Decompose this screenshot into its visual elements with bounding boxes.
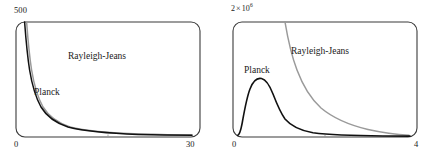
plot-panel-right: 2×106 0 4 Rayleigh-Jeans Planck (218, 0, 436, 163)
curve-annotation-planck-left: Planck (34, 88, 60, 98)
y-max-base: 10 (242, 4, 250, 13)
y-axis-max-label-left: 500 (14, 6, 27, 15)
curve-planck-right (238, 78, 411, 136)
curve-planck-left (25, 22, 192, 135)
plot-frame-right (233, 22, 417, 137)
plot-right-svg (218, 0, 436, 163)
y-axis-max-label-right: 2×106 (231, 5, 253, 13)
plot-frame-left (16, 22, 200, 137)
blackbody-figure: 500 0 30 Rayleigh-Jeans Planck 2×106 0 4… (0, 0, 436, 163)
y-max-exponent: 6 (250, 2, 253, 8)
x-axis-max-label-left: 30 (186, 140, 195, 149)
curve-annotation-rayleigh-jeans-left: Rayleigh-Jeans (68, 52, 126, 62)
plot-panel-left: 500 0 30 Rayleigh-Jeans Planck (0, 0, 218, 163)
curve-rayleigh-jeans-right (285, 22, 409, 135)
multiplication-sign: × (235, 4, 242, 13)
y-axis-min-label-right: 0 (232, 140, 236, 149)
x-axis-max-label-right: 4 (414, 140, 418, 149)
curve-annotation-rayleigh-jeans-right: Rayleigh-Jeans (291, 47, 349, 57)
y-axis-min-label-left: 0 (14, 140, 18, 149)
curve-annotation-planck-right: Planck (244, 66, 270, 76)
